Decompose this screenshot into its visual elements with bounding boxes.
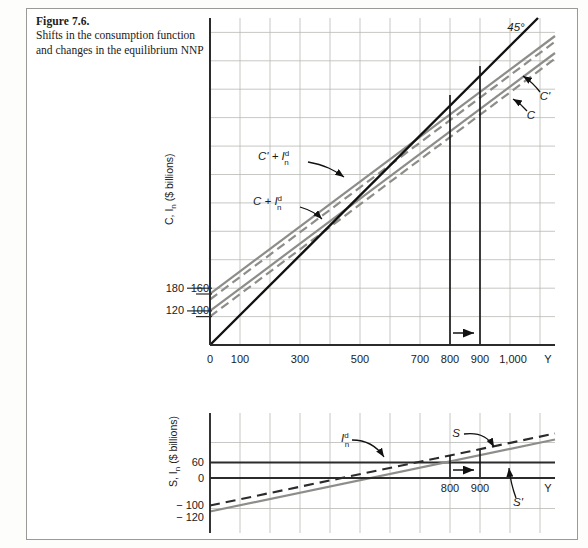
label-c-prime: C' [540, 90, 551, 102]
upper-x-tick-0: 0 [207, 353, 213, 365]
curve-c-prime [210, 53, 555, 311]
forty-five-degree-line [210, 18, 538, 345]
lower-chart: 60 0 − 100 − 120 800 900 Y S, In ($ bill… [167, 413, 555, 533]
label-investment: Idn [341, 431, 349, 449]
upper-y-tick-160: 160 [191, 282, 209, 294]
upper-chart: 180 160 120 100 0 100 300 500 700 800 90… [163, 18, 555, 365]
upper-y-tick-180: 180 [166, 282, 184, 294]
lower-y-tick-m120: − 120 [176, 511, 204, 523]
label-agg-sup: d [278, 194, 282, 203]
label-agg-prime-main: C' + I [258, 150, 286, 162]
label-agg-sub: n [277, 203, 281, 212]
label-c-arrow [513, 99, 527, 111]
lower-x-tick-800: 800 [441, 482, 459, 494]
lower-x-tick-900: 900 [471, 482, 489, 494]
lower-y-axis-title-main: S, I [167, 471, 179, 487]
lower-y-tick-m100: − 100 [176, 499, 204, 511]
label-agg-main: C + I [253, 195, 278, 207]
upper-x-tick-1000: 1,000 [499, 353, 527, 365]
label-45-degree: 45° [507, 21, 525, 33]
lower-y-tick-60: 60 [192, 456, 204, 468]
upper-y-tick-100: 100 [191, 304, 209, 316]
label-agg-prime-sub: n [284, 158, 288, 167]
label-agg-prime-sup: d [285, 149, 289, 158]
lower-y-tick-0: 0 [198, 472, 204, 484]
upper-x-tick-100: 100 [231, 353, 249, 365]
upper-y-tick-120: 120 [166, 304, 184, 316]
lower-y-axis-title-tail: ($ billions) [167, 416, 179, 467]
upper-y-axis-title: C, In ($ billions) [163, 153, 178, 225]
figure-graphics: 180 160 120 100 0 100 300 500 700 800 90… [0, 0, 588, 548]
upper-x-tick-300: 300 [291, 353, 309, 365]
label-c-plus-investment: C + Idn [253, 194, 282, 212]
curve-c [210, 59, 555, 317]
label-c-prime-plus-investment: C' + Idn [258, 149, 289, 167]
curve-s [210, 434, 555, 506]
label-investment-sub: n [345, 440, 349, 449]
svg-text:C, In ($ billions): C, In ($ billions) [163, 153, 178, 225]
upper-x-axis-title: Y [544, 353, 552, 365]
curve-s-prime [210, 440, 555, 512]
figure-page: Figure 7.6. Shifts in the consumption fu… [0, 0, 588, 548]
upper-y-axis-title-main: C, I [163, 209, 175, 225]
upper-x-tick-900: 900 [471, 353, 489, 365]
upper-x-tick-500: 500 [351, 353, 369, 365]
label-s-arrow [464, 434, 494, 447]
curve-c-plus-investment [210, 42, 555, 300]
upper-x-tick-800: 800 [441, 353, 459, 365]
lower-x-axis-title: Y [544, 482, 552, 494]
label-investment-sup: d [344, 431, 348, 440]
lower-y-axis-title: S, In ($ billions) [167, 416, 182, 487]
label-c: C [527, 109, 536, 121]
upper-y-axis-title-tail: ($ billions) [163, 153, 175, 204]
label-s: S [452, 427, 460, 439]
curve-c-prime-plus-investment [210, 36, 555, 294]
upper-x-tick-700: 700 [411, 353, 429, 365]
svg-text:S, In ($ billions): S, In ($ billions) [167, 416, 182, 487]
label-s-prime: S' [513, 496, 524, 508]
